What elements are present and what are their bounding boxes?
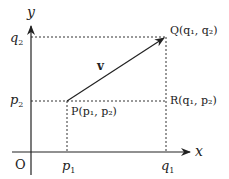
tick-label-p2: p2: [10, 92, 23, 109]
point-label-q: Q(q₁, q₂): [170, 24, 218, 37]
point-label-r: R(q₁, p₂): [170, 94, 217, 107]
guide-lines: [31, 37, 166, 152]
point-label-p: P(p₁, p₂): [71, 105, 117, 118]
tick-label-p1: p1: [62, 158, 75, 175]
tick-label-q1: q1: [161, 158, 174, 175]
y-axis-label: y: [26, 4, 36, 20]
tick-label-q2: q2: [10, 30, 23, 47]
vector-diagram: x y O q2 p2 p1 q1 v Q(q₁, q₂) P(p₁, p₂) …: [0, 0, 229, 179]
origin-label: O: [15, 157, 26, 172]
x-axis-label: x: [195, 143, 203, 159]
vector-v-arrow: [67, 38, 164, 101]
vector-label-v: v: [96, 59, 105, 73]
